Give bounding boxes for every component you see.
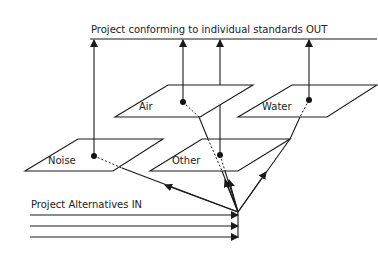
other-input-arrow — [229, 180, 238, 212]
water-input-arrow — [238, 172, 266, 212]
other-label: Other — [172, 155, 201, 166]
standards-diagram: Project conforming to individual standar… — [0, 0, 378, 269]
output-label: Project conforming to individual standar… — [91, 24, 328, 35]
input-label: Project Alternatives IN — [31, 199, 142, 210]
air-label: Air — [139, 101, 154, 112]
noise-label: Noise — [48, 155, 76, 166]
noise-input-arrow — [165, 185, 238, 212]
water-label: Water — [262, 101, 292, 112]
